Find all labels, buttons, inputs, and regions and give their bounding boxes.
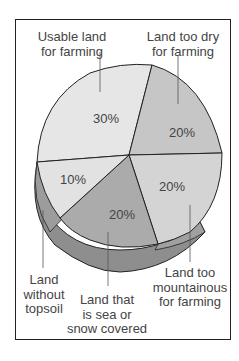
pct-sea: 20% bbox=[102, 208, 142, 223]
pct-mountain: 20% bbox=[152, 180, 192, 195]
label-topsoil: Land without topsoil bbox=[20, 273, 68, 317]
label-usable: Usable land for farming bbox=[28, 30, 116, 59]
pct-usable: 30% bbox=[86, 112, 126, 127]
label-sea: Land that is sea or snow covered bbox=[64, 293, 150, 337]
label-dry: Land too dry for farming bbox=[143, 30, 223, 59]
pct-dry: 20% bbox=[162, 126, 202, 141]
label-mountain: Land too mountainous for farming bbox=[148, 266, 232, 310]
pct-topsoil: 10% bbox=[53, 173, 93, 188]
